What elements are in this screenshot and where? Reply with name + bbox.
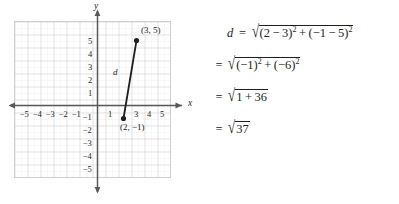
eq4-t0: 37 (236, 122, 249, 136)
radical-sign-icon: √ (228, 87, 235, 105)
x-tick-neg3: −3 (46, 110, 55, 119)
grid-major (15, 22, 171, 178)
eq2-radical: √(−1)2+(−6)2 (228, 57, 300, 73)
eq2-radicand: (−1)2+(−6)2 (235, 57, 300, 72)
x-tick-neg5: −5 (20, 110, 29, 119)
eq4-radical: √37 (228, 121, 249, 137)
x-tick-5: 5 (160, 110, 164, 119)
eq2-equals: = (213, 58, 225, 72)
eq1-t5: (−1 (309, 26, 326, 40)
eq4-equals: = (213, 122, 225, 136)
y-tick-5: 5 (88, 37, 92, 46)
eq1-lhs: d (227, 26, 233, 40)
eq1-t7: 5) (338, 26, 348, 40)
eq3-radical: √1+36 (228, 89, 268, 105)
y-tick-neg4: −4 (83, 152, 92, 161)
x-tick-4: 4 (147, 110, 151, 119)
y-tick-neg1: −1 (83, 113, 92, 122)
segment-distance-label: d (113, 68, 118, 77)
eq1-t0: (2 (260, 26, 270, 40)
x-tick-neg2: −2 (59, 110, 68, 119)
eq2-t2: + (262, 58, 274, 72)
y-tick-3: 3 (88, 63, 92, 72)
y-tick-neg3: −3 (83, 139, 92, 148)
eq1-t4: + (296, 26, 308, 40)
radical-sign-icon: √ (228, 55, 235, 73)
eq1-radical: √(2−3)2+(−1−5)2 (252, 25, 354, 41)
y-tick-neg2: −2 (83, 126, 92, 135)
point-b-marker (134, 38, 139, 43)
eq1-t1: − (270, 26, 282, 40)
eq2-t3: (−6) (274, 58, 296, 72)
worked-example-figure: x y −5 −4 −3 −2 −1 1 3 4 5 5 4 3 2 1 −1 … (0, 0, 399, 204)
point-a-label: (2, −1) (120, 123, 145, 132)
radical-sign-icon: √ (252, 23, 259, 41)
x-axis-label: x (188, 99, 192, 109)
equation-line-3: = √1+36 (213, 89, 268, 105)
equation-derivation: d = √(2−3)2+(−1−5)2 = √(−1)2+(−6)2 = √1+… (205, 0, 399, 204)
equation-line-4: = √37 (213, 121, 250, 137)
y-tick-2: 2 (88, 76, 92, 85)
y-tick-4: 4 (88, 50, 92, 59)
x-tick-neg1: −1 (72, 110, 81, 119)
eq3-t1: + (242, 90, 254, 104)
eq1-radicand: (2−3)2+(−1−5)2 (259, 25, 354, 40)
eq3-equals: = (213, 90, 225, 104)
y-tick-neg5: −5 (83, 165, 92, 174)
eq4-radicand: 37 (235, 121, 250, 136)
radical-sign-icon: √ (228, 119, 235, 137)
y-tick-1: 1 (88, 89, 92, 98)
eq3-t2: 36 (254, 90, 267, 104)
graph-canvas (0, 0, 200, 204)
point-a-marker (121, 116, 126, 121)
eq2-t4: 2 (295, 57, 299, 66)
eq1-t2: 3) (282, 26, 292, 40)
x-tick-3: 3 (134, 110, 138, 119)
equation-line-1: d = √(2−3)2+(−1−5)2 (227, 25, 353, 41)
point-b-label: (3, 5) (141, 26, 161, 35)
equation-line-2: = √(−1)2+(−6)2 (213, 57, 300, 73)
eq2-t0: (−1) (236, 58, 258, 72)
x-tick-1: 1 (108, 110, 112, 119)
eq1-equals: = (236, 26, 248, 40)
coordinate-graph: x y −5 −4 −3 −2 −1 1 3 4 5 5 4 3 2 1 −1 … (0, 0, 200, 204)
x-tick-neg4: −4 (33, 110, 42, 119)
eq1-t8: 2 (348, 25, 352, 34)
y-axis-label: y (94, 2, 98, 12)
eq3-radicand: 1+36 (235, 89, 268, 104)
eq1-t6: − (326, 26, 338, 40)
